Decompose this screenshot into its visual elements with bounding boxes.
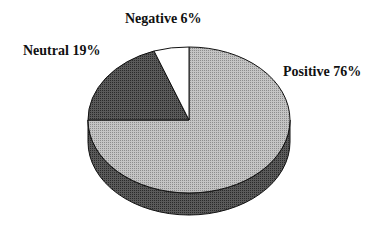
- label-neutral: Neutral 19%: [23, 43, 100, 59]
- label-positive: Positive 76%: [283, 64, 361, 80]
- pie-chart: [0, 0, 387, 230]
- label-negative: Negative 6%: [125, 11, 202, 27]
